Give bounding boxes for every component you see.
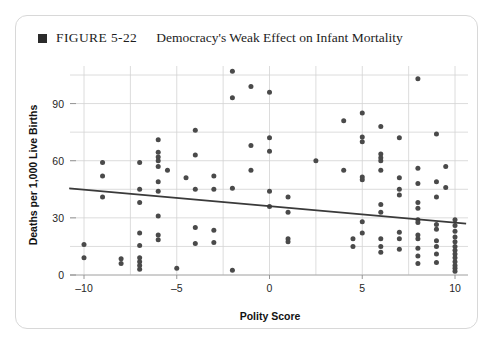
y-tick-label: 90 bbox=[52, 98, 64, 110]
y-tick-labels: 0306090 bbox=[52, 98, 64, 281]
trend-line bbox=[69, 188, 466, 223]
x-tick-label: –5 bbox=[171, 282, 183, 294]
x-tick-label: –10 bbox=[75, 282, 93, 294]
x-tick-label: 10 bbox=[449, 282, 461, 294]
y-tick-label: 0 bbox=[58, 269, 64, 281]
axis-ticks bbox=[70, 104, 455, 279]
y-tick-label: 60 bbox=[52, 155, 64, 167]
y-tick-label: 30 bbox=[52, 212, 64, 224]
y-axis-title: Deaths per 1,000 Live Births bbox=[27, 105, 39, 246]
x-tick-label: 5 bbox=[359, 282, 365, 294]
x-tick-labels: –10–50510 bbox=[75, 282, 461, 294]
x-axis-title: Polity Score bbox=[240, 310, 301, 322]
x-tick-label: 0 bbox=[267, 282, 273, 294]
scatter-chart: –10–50510 0306090 Polity Score Deaths pe… bbox=[0, 0, 495, 346]
